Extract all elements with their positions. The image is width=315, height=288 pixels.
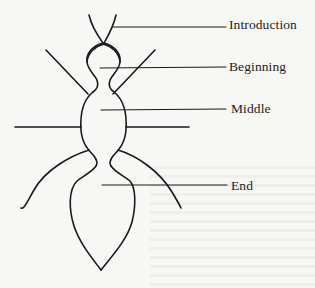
back-legs — [21, 150, 181, 208]
leader-lines — [100, 27, 227, 185]
ant-diagram — [0, 0, 315, 288]
antennae — [89, 15, 116, 43]
label-end: End — [231, 179, 253, 193]
front-legs — [46, 50, 155, 94]
label-introduction: Introduction — [229, 18, 297, 32]
leader-middle — [101, 109, 226, 110]
abdomen — [70, 166, 135, 270]
label-middle: Middle — [231, 102, 271, 116]
thorax — [81, 92, 126, 166]
label-beginning: Beginning — [229, 60, 286, 74]
diagram-canvas: Introduction Beginning Middle End — [0, 0, 315, 288]
